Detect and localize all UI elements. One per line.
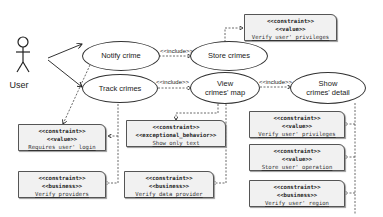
stereotype: <<constraint>> bbox=[250, 183, 344, 191]
constraint-note-region: <<constraint>> <<business>> Verify user'… bbox=[249, 180, 345, 207]
usecase-view-crimes-map[interactable]: View crimes' map bbox=[190, 72, 260, 104]
stereotype: <<value>> bbox=[19, 135, 105, 143]
stereotype: <<constraint>> bbox=[19, 127, 105, 135]
stereotype: <<constraint>> bbox=[127, 123, 225, 131]
constraint-text: Show only text bbox=[127, 139, 225, 147]
stereotype: <<business>> bbox=[19, 182, 105, 190]
stereotype: <<business>> bbox=[125, 182, 213, 190]
constraint-text: Verify providers bbox=[19, 190, 105, 198]
constraint-text: Store user' operation bbox=[250, 163, 344, 171]
constraint-note-data-provider: <<constraint>> <<business>> Verify data … bbox=[124, 171, 214, 198]
constraint-note-store-privileges: <<constraint>> <<value>> Verify user' pr… bbox=[244, 14, 337, 41]
constraint-note-providers: <<constraint>> <<business>> Verify provi… bbox=[18, 171, 106, 198]
usecase-notify-crime[interactable]: Notify crime bbox=[82, 41, 160, 71]
stereotype: <<value>> bbox=[250, 122, 344, 130]
stereotype: <<exceptional_behavior>> bbox=[127, 131, 225, 139]
include-label: <<include>> bbox=[156, 79, 189, 85]
include-label: <<include>> bbox=[160, 48, 193, 54]
actor-label: User bbox=[4, 80, 34, 90]
constraint-text: Verify user' region bbox=[250, 199, 344, 207]
constraint-text: Verify data provider bbox=[125, 190, 213, 198]
include-label: <<include>> bbox=[259, 79, 292, 85]
constraint-text: Verify user' privileges bbox=[245, 33, 336, 41]
stereotype: <<constraint>> bbox=[250, 147, 344, 155]
usecase-show-crimes-detail[interactable]: Show crimes' detail bbox=[290, 72, 366, 104]
stereotype: <<constraint>> bbox=[125, 174, 213, 182]
stereotype: <<value>> bbox=[250, 155, 344, 163]
stereotype: <<constraint>> bbox=[245, 17, 336, 25]
constraint-note-store-operation: <<constraint>> <<value>> Store user' ope… bbox=[249, 144, 345, 171]
constraint-note-show-privileges: <<constraint>> <<value>> Verify user' pr… bbox=[249, 111, 345, 138]
constraint-text: Verify user' privileges bbox=[250, 130, 344, 138]
usecase-store-crimes[interactable]: Store crimes bbox=[190, 41, 268, 71]
stereotype: <<business>> bbox=[250, 191, 344, 199]
stereotype: <<constraint>> bbox=[250, 114, 344, 122]
stereotype: <<value>> bbox=[245, 25, 336, 33]
constraint-text: Requires user' login bbox=[19, 143, 105, 151]
stereotype: <<constraint>> bbox=[19, 174, 105, 182]
constraint-note-show-text: <<constraint>> <<exceptional_behavior>> … bbox=[126, 120, 226, 147]
usecase-track-crimes[interactable]: Track crimes bbox=[82, 74, 158, 103]
constraint-note-login: <<constraint>> <<value>> Requires user' … bbox=[18, 124, 106, 151]
